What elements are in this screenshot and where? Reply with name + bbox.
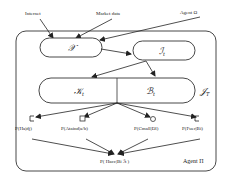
- diagram-canvas: Internet Market data Agent Ω 𝒳 ℐt 𝒦t ℬt …: [0, 0, 228, 179]
- agent-pi-label: Agent Π: [183, 158, 204, 164]
- outcome-label-1: P(Ha|dj): [15, 126, 32, 131]
- agent-omega-label: Agent Ω: [180, 10, 197, 15]
- outcome-label-2: P(Ataind|a/b): [61, 126, 88, 131]
- outcome-marker-2: [80, 116, 85, 121]
- market-data-label: Market data: [96, 11, 121, 16]
- outcome-marker-3: [151, 117, 156, 122]
- internet-label: Internet: [25, 11, 41, 16]
- outcome-label-4: P(Fuer|Bi): [182, 126, 203, 131]
- outcome-label-3: P(Cmall|Dl): [134, 126, 159, 131]
- final-outcome-label: P( Hacc|Bi ℐt ): [100, 159, 130, 164]
